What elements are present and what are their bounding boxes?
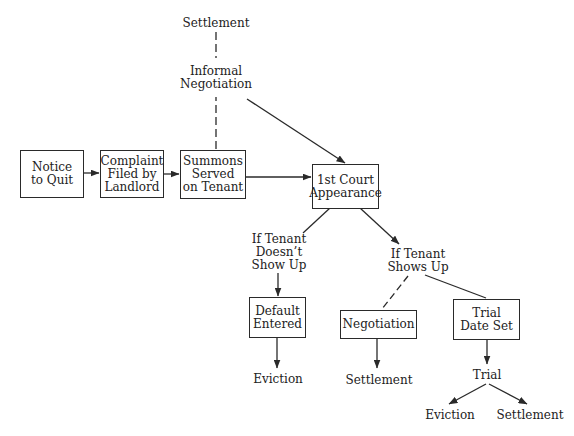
label-informal-negotiation: Informal Negotiation <box>180 65 252 91</box>
label-eviction-trial: Eviction <box>425 409 475 422</box>
node-first-court-appearance: 1st Court Appearance <box>312 164 379 209</box>
node-summons-served: Summons Served on Tenant <box>180 150 246 199</box>
eviction-process-flowchart: Notice to Quit Complaint Filed by Landlo… <box>0 0 574 436</box>
label-trial: Trial <box>473 369 502 382</box>
node-notice-to-quit: Notice to Quit <box>20 150 84 198</box>
label-eviction-default: Eviction <box>253 373 303 386</box>
node-label: Negotiation <box>343 318 415 331</box>
label-if-tenant-doesnt-show: If Tenant Doesn’t Show Up <box>251 233 306 272</box>
node-default-entered: Default Entered <box>249 297 306 338</box>
label-if-tenant-shows: If Tenant Shows Up <box>387 248 448 274</box>
node-label: Notice to Quit <box>31 161 73 187</box>
node-label: Summons Served on Tenant <box>183 155 243 194</box>
node-label: 1st Court Appearance <box>309 174 382 200</box>
node-trial-date-set: Trial Date Set <box>453 299 520 340</box>
node-negotiation: Negotiation <box>340 310 417 339</box>
label-settlement-trial: Settlement <box>497 409 564 422</box>
label-settlement-negotiation: Settlement <box>346 374 413 387</box>
label-settlement-top: Settlement <box>183 17 250 30</box>
node-label: Trial Date Set <box>460 307 513 333</box>
node-label: Default Entered <box>253 305 302 331</box>
node-complaint-filed: Complaint Filed by Landlord <box>100 150 164 198</box>
node-label: Complaint Filed by Landlord <box>101 155 164 194</box>
